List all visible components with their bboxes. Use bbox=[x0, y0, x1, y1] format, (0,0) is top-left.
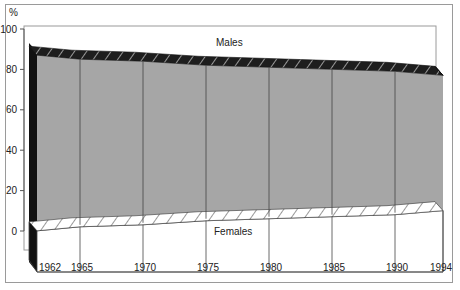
y-axis-unit-label: % bbox=[9, 7, 18, 18]
y-tick-label: 100 bbox=[0, 24, 17, 35]
x-tick-label: 1994 bbox=[430, 262, 453, 273]
y-tick-label: 80 bbox=[6, 64, 18, 75]
x-tick-label: 1970 bbox=[134, 262, 157, 273]
x-tick-label: 1980 bbox=[260, 262, 283, 273]
y-tick-label: 40 bbox=[6, 145, 18, 156]
x-tick-label: 1990 bbox=[386, 262, 409, 273]
series-label-males: Males bbox=[216, 37, 243, 48]
chart-canvas: 020406080100 % 1962196519701975198019851… bbox=[0, 0, 460, 290]
males-side-wall bbox=[29, 43, 37, 272]
y-tick-label: 0 bbox=[11, 226, 17, 237]
y-axis: 020406080100 bbox=[0, 24, 24, 237]
series-label-females: Females bbox=[214, 226, 252, 237]
series-layer bbox=[29, 46, 443, 272]
x-tick-label: 1965 bbox=[71, 262, 94, 273]
x-tick-label: 1975 bbox=[197, 262, 220, 273]
y-tick-label: 20 bbox=[6, 185, 18, 196]
males-area bbox=[37, 55, 443, 231]
y-tick-label: 60 bbox=[6, 104, 18, 115]
x-tick-label: 1985 bbox=[323, 262, 346, 273]
x-tick-label: 1962 bbox=[39, 262, 62, 273]
